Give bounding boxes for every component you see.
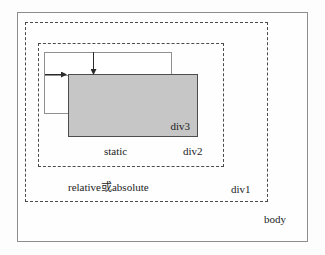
relative-absolute-label: relative或absolute: [68, 182, 149, 193]
top-flow-outline: [44, 52, 172, 76]
diagram-canvas: div3 static div2 relative或absolute div1 …: [0, 0, 325, 255]
div1-label: div1: [231, 184, 251, 195]
div3-label: div3: [170, 121, 190, 132]
div3-box: div3: [68, 74, 198, 137]
left-flow-outline: [44, 75, 70, 114]
static-label: static: [104, 146, 127, 157]
body-label: body: [264, 214, 286, 225]
div2-label: div2: [183, 146, 203, 157]
